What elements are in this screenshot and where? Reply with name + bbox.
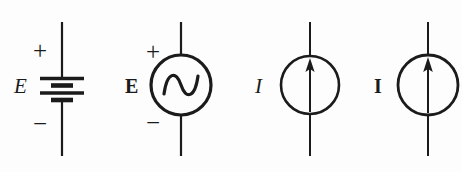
dc-voltage-plus-sign: + (33, 38, 47, 63)
dc-voltage-minus-sign: − (33, 111, 47, 136)
ac-current-source-symbol: I (366, 0, 462, 172)
ac-current-source-label: I (374, 76, 382, 96)
source-symbols-figure: E + − E + − (0, 0, 462, 172)
dc-current-source-symbol: I (248, 0, 372, 172)
ac-voltage-source-label: E (125, 76, 138, 96)
sine-wave-icon (164, 75, 198, 94)
ac-voltage-plus-sign: + (146, 39, 160, 64)
dc-current-source-drawing (248, 0, 372, 172)
ac-voltage-source-drawing (119, 0, 249, 172)
ac-voltage-minus-sign: − (146, 110, 160, 135)
ac-voltage-source-symbol: E + − (119, 0, 249, 172)
dc-current-source-label: I (255, 76, 262, 97)
dc-voltage-source-symbol: E + − (0, 0, 130, 172)
dc-voltage-source-label: E (14, 76, 27, 97)
